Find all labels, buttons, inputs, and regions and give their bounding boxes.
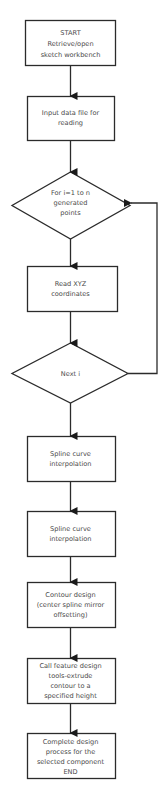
- svg-text:generated: generated: [53, 199, 87, 207]
- svg-text:Input data file for: Input data file for: [42, 109, 100, 117]
- edge-next-loop-back: [128, 203, 157, 374]
- loop-label: For i=1 to n generated points: [51, 189, 90, 217]
- input-label: Input data file for reading: [42, 109, 100, 127]
- start-label: START Retrieve/open sketch workbench: [41, 29, 101, 59]
- svg-text:interpolation: interpolation: [49, 460, 91, 468]
- read-node: [28, 267, 118, 312]
- svg-text:START: START: [60, 29, 81, 37]
- extrude-label: Call feature design tools-extrude contou…: [39, 662, 101, 700]
- svg-text:Call feature design: Call feature design: [39, 662, 101, 670]
- svg-text:(center spline mirror: (center spline mirror: [37, 601, 105, 609]
- svg-text:points: points: [60, 209, 81, 217]
- svg-text:Contour design: Contour design: [45, 591, 95, 599]
- spline2-label: Spline curve interpolation: [49, 525, 91, 543]
- spline2-node: [28, 512, 116, 557]
- svg-text:Complete design: Complete design: [43, 738, 99, 746]
- spline1-node: [28, 437, 116, 482]
- svg-text:Read XYZ: Read XYZ: [55, 280, 87, 288]
- svg-text:Next i: Next i: [61, 370, 80, 378]
- svg-text:process for the: process for the: [46, 748, 95, 756]
- svg-text:Spline curve: Spline curve: [50, 450, 91, 458]
- flowchart: START Retrieve/open sketch workbench Inp…: [0, 0, 164, 789]
- read-label: Read XYZ coordinates: [51, 280, 90, 298]
- svg-text:sketch workbench: sketch workbench: [41, 51, 101, 59]
- svg-text:interpolation: interpolation: [49, 535, 91, 543]
- svg-text:offsetting): offsetting): [53, 611, 87, 619]
- svg-text:END: END: [63, 768, 77, 776]
- svg-text:Retrieve/open: Retrieve/open: [47, 40, 93, 48]
- svg-text:coordinates: coordinates: [51, 290, 90, 298]
- svg-text:tools-extrude: tools-extrude: [49, 672, 93, 680]
- svg-text:specified height: specified height: [44, 692, 97, 700]
- spline1-label: Spline curve interpolation: [49, 450, 91, 468]
- next-label: Next i: [61, 370, 80, 378]
- svg-text:reading: reading: [58, 119, 83, 127]
- svg-text:Spline curve: Spline curve: [50, 525, 91, 533]
- svg-text:contour to a: contour to a: [50, 682, 90, 690]
- end-label: Complete design process for the selected…: [37, 738, 105, 776]
- contour-label: Contour design (center spline mirror off…: [37, 591, 105, 619]
- svg-text:For i=1 to n: For i=1 to n: [51, 189, 90, 197]
- svg-text:selected component: selected component: [37, 758, 105, 766]
